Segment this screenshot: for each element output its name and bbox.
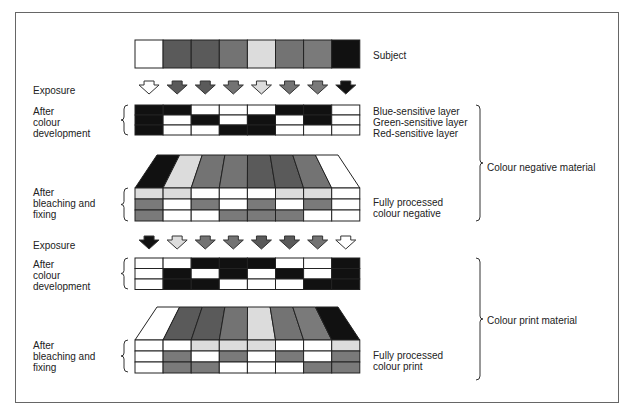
print-processed-row2-cell	[135, 362, 163, 373]
print-dev-row2-cell	[276, 279, 304, 290]
print-processed-row2-cell	[332, 362, 360, 373]
negative-processed-row0-cell	[276, 188, 304, 199]
negative-processed-row1-cell	[219, 199, 247, 210]
negative-dev-row0-cell	[219, 105, 247, 115]
negative-processed-row2-cell	[332, 210, 360, 221]
print-dev-row2-cell	[247, 279, 275, 290]
print-dev-row0-cell	[276, 258, 304, 269]
subject-cell	[191, 40, 219, 68]
negative-dev-row1-cell	[163, 115, 191, 125]
print-dev-row0-cell	[219, 258, 247, 269]
print-dev-row1-cell	[191, 269, 219, 280]
negative-dev-row2-cell	[135, 125, 163, 135]
subject-cell	[304, 40, 332, 68]
negative-dev-row0-cell	[163, 105, 191, 115]
print-exposure-arrow-icon	[251, 236, 271, 249]
negative-exposure-arrow-icon	[139, 81, 159, 94]
print-processed-row2-cell	[219, 362, 247, 373]
negative-bleach-brace	[121, 188, 128, 221]
negative-dev-row2-cell	[163, 125, 191, 135]
negative-dev-row0-cell	[135, 105, 163, 115]
negative-processed-row2-cell	[135, 210, 163, 221]
print-dev-brace	[121, 258, 128, 289]
print-dev-row1-cell	[276, 269, 304, 280]
negative-processed-row2-cell	[219, 210, 247, 221]
print-material-brace	[476, 258, 483, 380]
negative-dev-row2-cell	[247, 125, 275, 135]
negative-processed-row1-cell	[163, 199, 191, 210]
print-exposure-arrow-icon	[139, 236, 159, 249]
negative-material-label: Colour negative material	[487, 162, 595, 173]
print-processed-row0-cell	[247, 340, 275, 351]
negative-processed-row2-cell	[276, 210, 304, 221]
subject-cell	[247, 40, 275, 68]
negative-processed-row0-cell	[332, 188, 360, 199]
print-dev-row0-cell	[135, 258, 163, 269]
print-dev-row2-cell	[163, 279, 191, 290]
negative-dev-row1-cell	[135, 115, 163, 125]
negative-dev-row1-cell	[191, 115, 219, 125]
negative-processed-row1-cell	[191, 199, 219, 210]
print-exposure-arrow-icon	[223, 236, 243, 249]
print-bleach-brace	[121, 340, 128, 372]
negative-material-brace	[476, 105, 483, 221]
print-processed-row2-cell	[247, 362, 275, 373]
negative-processed-row1-cell	[304, 199, 332, 210]
negative-exposure-arrow-icon	[195, 81, 215, 94]
print-material-label: Colour print material	[487, 315, 577, 326]
layer-label-red: Red-sensitive layer	[373, 128, 458, 139]
print-processed-row1-cell	[219, 351, 247, 362]
negative-dev-row1-cell	[276, 115, 304, 125]
print-processed-row1-cell	[276, 351, 304, 362]
print-processed-row1-cell	[332, 351, 360, 362]
print-processed-row1-cell	[163, 351, 191, 362]
negative-exposure-arrow-icon	[308, 81, 328, 94]
negative-processed-label: Fully processed colour negative	[373, 197, 443, 219]
negative-processed-row0-cell	[163, 188, 191, 199]
subject-cell	[163, 40, 191, 68]
negative-exposure-arrow-icon	[251, 81, 271, 94]
print-processed-row0-cell	[219, 340, 247, 351]
negative-dev-row2-cell	[304, 125, 332, 135]
print-processed-row0-cell	[304, 340, 332, 351]
negative-dev-row0-cell	[191, 105, 219, 115]
print-exposure-label: Exposure	[33, 240, 75, 251]
negative-processed-row0-cell	[304, 188, 332, 199]
negative-processed-row0-cell	[191, 188, 219, 199]
negative-dev-row0-cell	[332, 105, 360, 115]
negative-processed-row2-cell	[163, 210, 191, 221]
print-bleach-label: After bleaching and fixing	[33, 340, 95, 373]
negative-processed-row0-cell	[219, 188, 247, 199]
print-dev-row1-cell	[135, 269, 163, 280]
negative-dev-row0-cell	[247, 105, 275, 115]
print-dev-row2-cell	[135, 279, 163, 290]
print-exposure-arrow-icon	[280, 236, 300, 249]
print-processed-row0-cell	[191, 340, 219, 351]
negative-dev-row1-cell	[332, 115, 360, 125]
negative-exposure-arrow-icon	[223, 81, 243, 94]
print-dev-row1-cell	[332, 269, 360, 280]
print-exposure-arrow-icon	[308, 236, 328, 249]
print-processed-row0-cell	[163, 340, 191, 351]
subject-label: Subject	[373, 50, 406, 61]
print-processed-label: Fully processed colour print	[373, 350, 443, 372]
negative-dev-row2-cell	[332, 125, 360, 135]
subject-cell	[276, 40, 304, 68]
print-dev-row1-cell	[247, 269, 275, 280]
negative-processed-row0-cell	[135, 188, 163, 199]
negative-dev-row0-cell	[304, 105, 332, 115]
negative-dev-row2-cell	[191, 125, 219, 135]
negative-exposure-arrow-icon	[167, 81, 187, 94]
print-processed-row2-cell	[276, 362, 304, 373]
negative-processed-row2-cell	[191, 210, 219, 221]
print-dev-row2-cell	[191, 279, 219, 290]
print-processed-row1-cell	[304, 351, 332, 362]
negative-processed-row1-cell	[332, 199, 360, 210]
print-processed-row2-cell	[191, 362, 219, 373]
print-dev-row0-cell	[191, 258, 219, 269]
print-processed-row2-cell	[304, 362, 332, 373]
negative-processed-row1-cell	[247, 199, 275, 210]
subject-cell	[219, 40, 247, 68]
layer-label-green: Green-sensitive layer	[373, 117, 467, 128]
negative-dev-row1-cell	[304, 115, 332, 125]
